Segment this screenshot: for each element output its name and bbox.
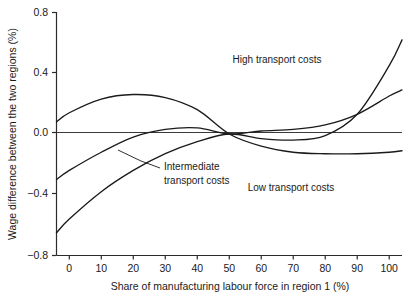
x-tick-label-7: 70 <box>287 262 299 274</box>
x-tick-label-9: 90 <box>351 262 363 274</box>
x-tick-label-0: 0 <box>66 262 72 274</box>
annotation-intermediate-line1: Intermediate <box>164 161 220 172</box>
x-tick-label-5: 50 <box>223 262 235 274</box>
y-tick-label-4: −0.8 <box>27 249 48 261</box>
x-tick-label-2: 20 <box>127 262 139 274</box>
annotation-intermediate-line2: transport costs <box>164 175 230 186</box>
x-tick-label-4: 40 <box>191 262 203 274</box>
x-tick-label-8: 80 <box>319 262 331 274</box>
annotation-low-transport-costs: Low transport costs <box>248 182 335 193</box>
chart-figure: 0.8 0.4 0.0 −0.4 −0.8 010203040506070809… <box>0 0 420 304</box>
x-tick-label-6: 60 <box>255 262 267 274</box>
y-tick-label-0: 0.8 <box>33 6 48 18</box>
x-tick-label-3: 30 <box>159 262 171 274</box>
x-tick-label-10: 100 <box>380 262 398 274</box>
annotation-high-transport-costs: High transport costs <box>233 54 322 65</box>
wage-difference-line-chart: 0.8 0.4 0.0 −0.4 −0.8 010203040506070809… <box>0 0 420 304</box>
x-axis-title: Share of manufacturing labour force in r… <box>111 280 350 292</box>
y-tick-label-3: −0.4 <box>27 187 48 199</box>
y-tick-label-1: 0.4 <box>33 66 48 78</box>
y-axis-title: Wage difference between the two regions … <box>6 28 18 240</box>
y-tick-label-2: 0.0 <box>33 126 48 138</box>
x-tick-label-1: 10 <box>95 262 107 274</box>
